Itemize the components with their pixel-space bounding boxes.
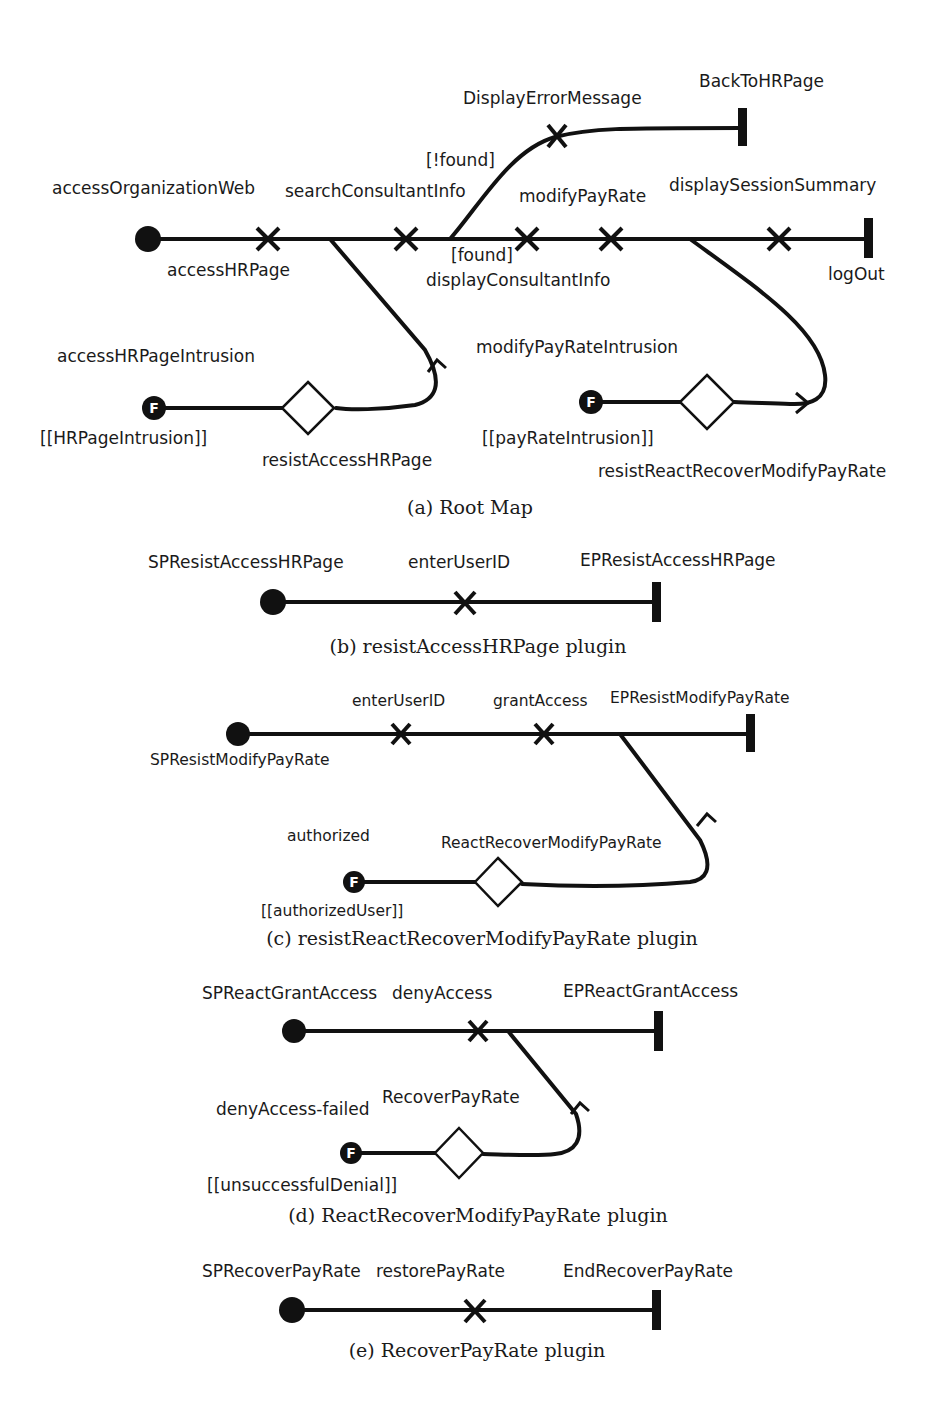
responsibility-label: denyAccess: [392, 983, 492, 1003]
svg-text:F: F: [586, 394, 596, 410]
responsibility-label: displayConsultantInfo: [426, 270, 610, 290]
svg-text:F: F: [149, 400, 159, 416]
condition-label: [!found]: [426, 150, 495, 170]
start-point-icon: [135, 226, 161, 252]
responsibility-label: restorePayRate: [376, 1261, 505, 1281]
react-recover-plugin: F SPReactGrantAccess denyAccess EPReactG…: [202, 981, 738, 1226]
caption-d: (d) ReactRecoverModifyPayRate plugin: [288, 1204, 668, 1226]
caption-a: (a) Root Map: [407, 496, 533, 518]
end-label: EPResistAccessHRPage: [580, 550, 776, 570]
failure-condition: [[authorizedUser]]: [261, 902, 403, 920]
end-label: EndRecoverPayRate: [563, 1261, 733, 1281]
end-point-back-to-hr-icon: [738, 108, 747, 146]
end-point-icon: [652, 1290, 661, 1330]
recover-payrate-plugin: SPRecoverPayRate restorePayRate EndRecov…: [202, 1261, 733, 1361]
resist-react-recover-plugin: F enterUserID grantAccess EPResistModify…: [150, 689, 790, 949]
failure-label: modifyPayRateIntrusion: [476, 337, 678, 357]
end-point-logout-icon: [864, 218, 873, 258]
start-point-icon: [282, 1019, 306, 1043]
responsibility-label: enterUserID: [352, 692, 445, 710]
end-label: EPReactGrantAccess: [563, 981, 738, 1001]
resist-access-hr-page-plugin: SPResistAccessHRPage enterUserID EPResis…: [148, 550, 776, 657]
failure-point-hr-intrusion-icon: F: [142, 396, 166, 420]
stub-label: resistReactRecoverModifyPayRate: [598, 461, 886, 481]
failure-point-deny-failed-icon: F: [340, 1142, 362, 1164]
svg-text:F: F: [349, 874, 359, 890]
end-label: BackToHRPage: [699, 71, 824, 91]
root-map-diagram: F F accessOrganizationWeb accessHRPage s…: [40, 71, 886, 518]
failure-condition: [[unsuccessfulDenial]]: [207, 1175, 397, 1195]
start-label: SPReactGrantAccess: [202, 983, 377, 1003]
end-point-icon: [654, 1011, 663, 1051]
svg-text:F: F: [346, 1145, 356, 1161]
stub-recover-payrate-icon: [435, 1128, 483, 1178]
end-point-icon: [652, 582, 661, 622]
stub-resist-access-hr-page-icon: [282, 382, 334, 434]
failure-point-authorized-icon: F: [343, 871, 365, 893]
arrow-icon: [571, 1103, 589, 1114]
authorized-join-path: [522, 734, 707, 886]
end-label: EPResistModifyPayRate: [610, 689, 790, 707]
start-point-icon: [226, 722, 250, 746]
use-case-maps-figure: F F accessOrganizationWeb accessHRPage s…: [0, 0, 946, 1404]
stub-react-recover-icon: [475, 858, 522, 906]
condition-label: [found]: [451, 245, 513, 265]
stub-label: ReactRecoverModifyPayRate: [441, 834, 662, 852]
responsibility-label: enterUserID: [408, 552, 510, 572]
responsibility-label: accessHRPage: [167, 260, 290, 280]
stub-label: RecoverPayRate: [382, 1087, 520, 1107]
responsibility-label: grantAccess: [493, 692, 588, 710]
failure-condition: [[HRPageIntrusion]]: [40, 428, 207, 448]
responsibility-label: displaySessionSummary: [669, 175, 876, 195]
arrow-icon: [697, 814, 716, 826]
end-point-icon: [746, 714, 755, 752]
caption-e: (e) RecoverPayRate plugin: [349, 1339, 606, 1361]
stub-resist-react-recover-icon: [680, 375, 734, 429]
start-label: accessOrganizationWeb: [52, 178, 255, 198]
failure-label: denyAccess-failed: [216, 1099, 370, 1119]
caption-b: (b) resistAccessHRPage plugin: [330, 635, 627, 657]
failure-condition: [[payRateIntrusion]]: [482, 428, 654, 448]
failure-label: authorized: [287, 827, 370, 845]
hr-intrusion-join-path: [330, 239, 436, 409]
failure-label: accessHRPageIntrusion: [57, 346, 255, 366]
stub-label: resistAccessHRPage: [262, 450, 432, 470]
start-point-icon: [279, 1297, 305, 1323]
start-label: SPRecoverPayRate: [202, 1261, 361, 1281]
start-label: SPResistModifyPayRate: [150, 751, 330, 769]
responsibility-label: modifyPayRate: [519, 186, 646, 206]
start-label: SPResistAccessHRPage: [148, 552, 344, 572]
responsibility-label: DisplayErrorMessage: [463, 88, 642, 108]
caption-c: (c) resistReactRecoverModifyPayRate plug…: [266, 927, 698, 949]
responsibility-label: searchConsultantInfo: [285, 181, 466, 201]
end-label: logOut: [828, 264, 885, 284]
start-point-icon: [260, 589, 286, 615]
failure-point-payrate-intrusion-icon: F: [579, 390, 603, 414]
